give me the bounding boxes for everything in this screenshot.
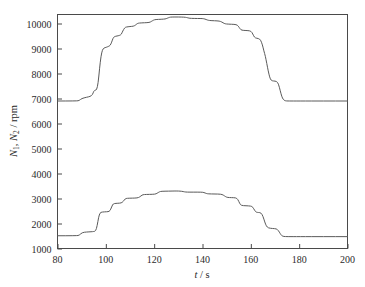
series-line-N2 (58, 191, 348, 237)
x-tick-label: 80 (53, 254, 63, 265)
x-axis-tick-labels: 80100120140160180200 (53, 254, 356, 265)
y-tick-label: 7000 (32, 94, 52, 105)
x-axis-ticks (58, 244, 348, 249)
y-tick-label: 1000 (32, 244, 52, 255)
svg-text:t / s: t / s (194, 269, 209, 280)
x-tick-label: 100 (98, 254, 113, 265)
y-axis-ticks (58, 24, 63, 249)
x-axis-title: t / s (194, 269, 209, 280)
axis-frame (58, 15, 348, 249)
figure-container: 1000200030004000500060007000800090001000… (0, 0, 365, 287)
y-tick-label: 6000 (32, 119, 52, 130)
chart-plot: 1000200030004000500060007000800090001000… (0, 0, 365, 287)
data-series-group (58, 17, 348, 237)
y-tick-label: 4000 (32, 169, 52, 180)
y-tick-label: 9000 (32, 44, 52, 55)
x-tick-label: 200 (340, 254, 355, 265)
x-tick-label: 120 (147, 254, 162, 265)
y-axis-tick-labels: 1000200030004000500060007000800090001000… (27, 19, 52, 255)
x-title-unit: / s (197, 269, 209, 280)
y-tick-label: 10000 (27, 19, 52, 30)
x-tick-label: 140 (195, 254, 210, 265)
x-tick-label: 160 (243, 254, 258, 265)
x-tick-label: 180 (292, 254, 307, 265)
y-tick-label: 5000 (32, 144, 52, 155)
y-tick-label: 2000 (32, 219, 52, 230)
y-tick-label: 8000 (32, 69, 52, 80)
y-axis-title: N1, N2 / rpm (8, 105, 21, 158)
series-line-N1 (58, 17, 348, 101)
y-tick-label: 3000 (32, 194, 52, 205)
y-title-unit: / rpm (8, 105, 19, 130)
svg-text:N1, N2 / rpm: N1, N2 / rpm (8, 105, 21, 158)
